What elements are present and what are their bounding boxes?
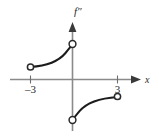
y-axis-arrow-icon xyxy=(69,22,77,32)
endpoint-open-left-minus3 xyxy=(27,64,33,70)
x-axis-label: x xyxy=(144,74,150,85)
endpoint-open-left-origin xyxy=(69,41,76,48)
y-axis xyxy=(69,22,77,131)
curve-path-left xyxy=(31,44,73,67)
coordinate-plot: f″ –3 3 x xyxy=(0,0,159,136)
curve-branch-right xyxy=(69,93,121,123)
curve-path-right xyxy=(73,97,118,120)
x-axis-arrow-icon xyxy=(131,76,141,84)
graph-figure: f″ –3 3 x xyxy=(0,0,159,136)
x-tick-label-right: 3 xyxy=(115,83,121,95)
function-label: f″ xyxy=(74,5,82,17)
endpoint-open-right-origin xyxy=(69,117,76,124)
curve-branch-left xyxy=(27,41,76,71)
x-tick-label-left: –3 xyxy=(24,83,37,95)
